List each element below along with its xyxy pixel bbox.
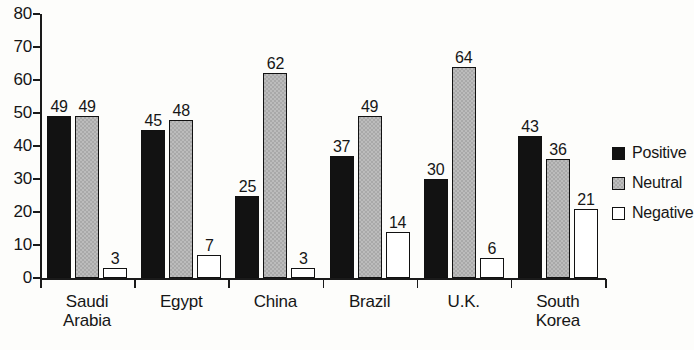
x-axis-category-label-line: Korea [511,311,605,330]
bar-negative-brazil: 14 [386,232,410,278]
bar-value-label: 45 [145,113,162,129]
bar-value-label: 3 [111,251,120,267]
x-axis-category-label: SaudiArabia [40,292,134,330]
y-axis-tick-label: 60 [2,71,32,88]
bar-neutral-china: 62 [263,73,287,278]
bar-negative-u-k: 6 [480,258,504,278]
x-axis-category-label: Brazil [323,292,417,311]
bar-value-label: 49 [361,99,378,115]
legend-item-negative[interactable]: Negative [612,200,694,226]
bar-neutral-saudi-arabia: 49 [75,116,99,278]
bar-value-label: 48 [173,103,190,119]
y-axis-tick-label: 0 [2,269,32,286]
legend-item-positive[interactable]: Positive [612,140,694,166]
x-axis-tick [605,279,607,288]
bar-positive-u-k: 30 [424,179,448,278]
bar-value-label: 3 [299,251,308,267]
y-axis-tick-label: 40 [2,137,32,154]
x-axis-category-label-line: U.K. [417,292,511,311]
y-axis-tick [33,46,40,48]
y-axis-tick [33,79,40,81]
legend-label: Positive [632,145,686,161]
bar-negative-china: 3 [291,268,315,278]
bar-positive-brazil: 37 [330,156,354,278]
x-axis-tick [417,279,419,288]
y-axis-labels: 01020304050607080 [0,0,32,350]
bar-value-label: 25 [239,179,256,195]
bar-value-label: 49 [50,99,67,115]
bar-value-label: 7 [205,238,214,254]
bar-negative-south-korea: 21 [574,209,598,278]
bar-value-label: 43 [521,119,538,135]
plot-area: 49493454872562337491430646433621 [40,14,605,278]
y-axis-tick-label: 50 [2,104,32,121]
x-axis-category-label: Egypt [134,292,228,311]
y-axis-tick-label: 70 [2,38,32,55]
y-axis-tick [33,112,40,114]
bar-value-label: 49 [78,99,95,115]
bar-negative-saudi-arabia: 3 [103,268,127,278]
x-axis-category-label: U.K. [417,292,511,311]
y-axis-tick [33,145,40,147]
x-axis-category-label-line: Saudi [40,292,134,311]
bar-positive-egypt: 45 [141,130,165,279]
legend-label: Negative [632,205,694,221]
bar-negative-egypt: 7 [197,255,221,278]
legend-swatch-negative-icon [612,207,625,220]
bar-value-label: 21 [577,192,594,208]
x-axis-category-label-line: China [228,292,322,311]
y-axis-tick [33,13,40,15]
y-axis-tick-label: 30 [2,170,32,187]
legend-swatch-neutral-icon [612,177,625,190]
bar-neutral-brazil: 49 [358,116,382,278]
y-axis-tick [33,244,40,246]
x-axis-category-label: SouthKorea [511,292,605,330]
legend-item-neutral[interactable]: Neutral [612,170,694,196]
bar-value-label: 6 [487,241,496,257]
y-axis-tick [33,211,40,213]
x-axis-tick [323,279,325,288]
x-axis-category-label-line: Egypt [134,292,228,311]
y-axis-tick-label: 80 [2,5,32,22]
x-axis-category-label-line: South [511,292,605,311]
y-axis-tick-label: 10 [2,236,32,253]
bar-positive-china: 25 [235,196,259,279]
bar-value-label: 62 [267,56,284,72]
bar-positive-saudi-arabia: 49 [47,116,71,278]
bar-neutral-egypt: 48 [169,120,193,278]
y-axis-tick [33,178,40,180]
legend-label: Neutral [632,175,682,191]
y-axis-tick [33,277,40,279]
bar-positive-south-korea: 43 [518,136,542,278]
bar-neutral-south-korea: 36 [546,159,570,278]
legend-swatch-positive-icon [612,147,625,160]
bar-value-label: 14 [389,215,406,231]
x-axis-tick [134,279,136,288]
bar-neutral-u-k: 64 [452,67,476,278]
x-axis-category-label-line: Brazil [323,292,417,311]
y-axis-tick-label: 20 [2,203,32,220]
x-axis-tick [40,279,42,288]
bar-value-label: 36 [549,142,566,158]
bar-value-label: 30 [427,162,444,178]
bar-value-label: 37 [333,139,350,155]
x-axis-category-label: China [228,292,322,311]
x-axis-tick [511,279,513,288]
bar-value-label: 64 [455,50,472,66]
x-axis-tick [228,279,230,288]
chart-legend: PositiveNeutralNegative [612,140,694,230]
x-axis-category-label-line: Arabia [40,311,134,330]
bar-chart: 01020304050607080 4949345487256233749143… [0,0,694,350]
